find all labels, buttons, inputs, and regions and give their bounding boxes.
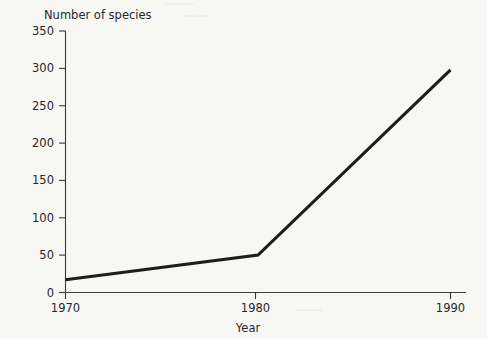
y-tick-label: 200: [32, 136, 54, 150]
chart-figure: ́́ ́́́́ ́́́ ́́́́ ́́ ́́́́́ ́́́́́́ ́́́ ́́́…: [0, 0, 487, 339]
data-series-line: [66, 70, 451, 280]
y-tick-label: 150: [32, 173, 54, 187]
y-tick-label: 100: [32, 211, 54, 225]
x-tick-label: 1990: [436, 301, 465, 315]
x-axis-title: Year: [235, 321, 261, 335]
x-axis-ticks: [66, 293, 451, 300]
y-tick-label: 50: [39, 248, 54, 262]
line-chart: 0 50 100 150 200 250 300 350 Number of s…: [0, 0, 487, 339]
y-axis-ticks: [59, 31, 66, 293]
x-axis-tick-labels: 1970 1980 1990: [51, 301, 465, 315]
y-axis-title: Number of species: [44, 8, 152, 22]
x-tick-label: 1980: [241, 301, 270, 315]
y-axis: 0 50 100 150 200 250 300 350 Number of s…: [32, 8, 152, 300]
y-tick-label: 250: [32, 99, 54, 113]
x-axis: 1970 1980 1990 Year: [51, 293, 466, 336]
x-tick-label: 1970: [51, 301, 80, 315]
y-axis-tick-labels: 0 50 100 150 200 250 300 350: [32, 24, 54, 300]
y-tick-label: 0: [47, 286, 54, 300]
y-tick-label: 350: [32, 24, 54, 38]
y-tick-label: 300: [32, 61, 54, 75]
